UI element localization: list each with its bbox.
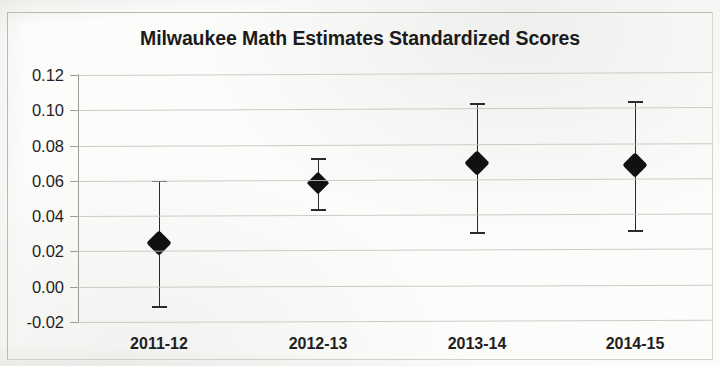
y-axis-tick-label: 0.08 bbox=[8, 138, 64, 155]
x-axis-tick-label-2012-13: 2012-13 bbox=[248, 336, 388, 352]
gridline bbox=[78, 214, 712, 218]
y-axis-tick-label: 0.04 bbox=[8, 208, 64, 225]
data-point-marker-2014-15 bbox=[622, 152, 647, 177]
gridline bbox=[78, 249, 712, 252]
error-bar-cap-lower bbox=[152, 306, 167, 308]
error-bar-cap-upper bbox=[628, 101, 643, 103]
gridline bbox=[78, 178, 712, 182]
error-bar-cap-upper bbox=[470, 103, 485, 105]
y-axis-tick-label: 0.00 bbox=[8, 279, 64, 296]
error-bar-cap-upper bbox=[311, 158, 326, 160]
error-bar-cap-lower bbox=[628, 230, 643, 232]
plot-area bbox=[78, 75, 712, 322]
y-axis-tick-label: 0.10 bbox=[8, 102, 64, 119]
gridline bbox=[78, 143, 712, 147]
error-bar-cap-lower bbox=[470, 232, 485, 234]
gridline bbox=[78, 284, 712, 287]
data-point-marker-2013-14 bbox=[464, 150, 489, 175]
y-axis-tick-label: -0.02 bbox=[8, 314, 64, 331]
data-point-marker-2012-13 bbox=[307, 171, 330, 194]
x-axis-tick-label-2013-14: 2013-14 bbox=[407, 336, 547, 352]
y-axis-tick-label: 0.12 bbox=[8, 67, 64, 84]
chart-page: Milwaukee Math Estimates Standardized Sc… bbox=[0, 0, 720, 366]
y-axis-tick-label: 0.02 bbox=[8, 243, 64, 260]
error-bar-cap-lower bbox=[311, 209, 326, 211]
gridline bbox=[78, 107, 712, 111]
x-axis-tick-label-2011-12: 2011-12 bbox=[89, 336, 229, 352]
chart-title: Milwaukee Math Estimates Standardized Sc… bbox=[0, 27, 720, 50]
y-axis-tick-label: 0.06 bbox=[8, 173, 64, 190]
x-axis-tick-label-2014-15: 2014-15 bbox=[565, 336, 705, 352]
